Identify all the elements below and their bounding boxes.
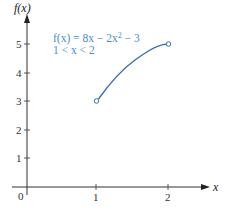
y-ticks: 1 2 3 4 5 <box>16 38 30 164</box>
function-curve <box>99 44 167 99</box>
y-axis-arrow-icon <box>24 14 30 23</box>
chart-svg: 1 2 3 4 5 1 2 0 f(x) x f(x) = 8x − 2x2 −… <box>0 0 230 211</box>
y-tick-label-4: 4 <box>16 67 22 79</box>
x-axis-label: x <box>212 180 219 194</box>
function-formula: f(x) = 8x − 2x2 − 3 <box>53 31 140 45</box>
open-endpoint-left <box>94 99 99 104</box>
y-tick-label-2: 2 <box>16 124 22 136</box>
x-tick-label-2: 2 <box>165 191 171 203</box>
origin-label: 0 <box>18 190 24 202</box>
y-axis-label: f(x) <box>14 1 31 15</box>
function-domain: 1 < x < 2 <box>53 44 95 56</box>
y-tick-label-1: 1 <box>16 152 22 164</box>
x-axis-arrow-icon <box>201 184 210 190</box>
y-tick-label-3: 3 <box>16 95 22 107</box>
function-graph: 1 2 3 4 5 1 2 0 f(x) x f(x) = 8x − 2x2 −… <box>0 0 230 211</box>
open-endpoint-right <box>166 42 171 47</box>
x-tick-label-1: 1 <box>93 191 99 203</box>
function-annotation: f(x) = 8x − 2x2 − 3 1 < x < 2 <box>53 31 140 56</box>
y-tick-label-5: 5 <box>16 38 22 50</box>
